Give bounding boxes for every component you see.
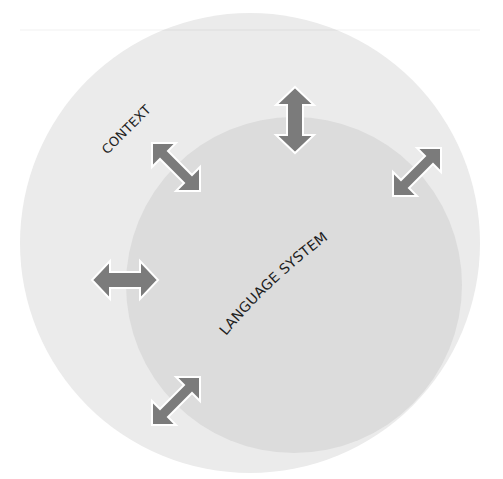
- context-language-diagram: CONTEXT LANGUAGE SYSTEM: [0, 0, 503, 479]
- diagram-stage: CONTEXT LANGUAGE SYSTEM: [0, 0, 503, 479]
